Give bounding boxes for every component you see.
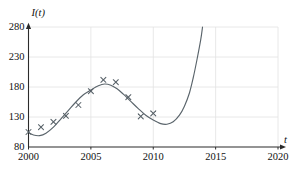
data-point-marker (113, 80, 118, 85)
data-point-marker (76, 103, 81, 108)
y-tick-label: 180 (9, 82, 25, 93)
data-point-marker (138, 114, 143, 119)
data-point-marker (51, 119, 56, 124)
x-tick-label: 2005 (75, 152, 107, 163)
data-point-marker (101, 77, 106, 82)
chart-figure: I(t) t 80130180230280 200020052010201520… (0, 0, 290, 170)
axis-lines (26, 23, 286, 150)
x-axis-label: t (284, 135, 287, 146)
x-tick-label: 2000 (13, 152, 45, 163)
x-tick-label: 2015 (200, 152, 232, 163)
y-axis-label: I(t) (32, 8, 45, 19)
plot-canvas (0, 0, 290, 170)
y-axis-arrowhead (26, 23, 31, 29)
y-tick-label: 230 (9, 52, 25, 63)
y-tick-label: 130 (9, 112, 25, 123)
data-point-marker (38, 125, 43, 130)
x-tick-label: 2020 (262, 152, 290, 163)
x-tick-label: 2010 (137, 152, 169, 163)
y-tick-label: 280 (9, 22, 25, 33)
